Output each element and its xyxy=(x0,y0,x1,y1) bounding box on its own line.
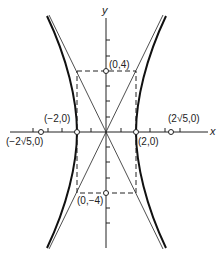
vertex-right-label: (2,0) xyxy=(138,136,159,147)
vertex-left-label: (−2,0) xyxy=(44,113,70,124)
vertex-right-point xyxy=(134,130,139,135)
focus-right-point xyxy=(169,130,174,135)
co-vertex-top-point xyxy=(104,69,109,74)
vertex-left-point xyxy=(75,130,80,135)
focus-left-point xyxy=(39,130,44,135)
co-vertex-top-label: (0,4) xyxy=(109,59,130,70)
focus-left-label: (−2√5,0) xyxy=(6,136,43,147)
x-axis-label: x xyxy=(209,125,216,137)
diagram-canvas: x y (0,4) (0,−4) (2,0) (−2,0) (2√5,0) (−… xyxy=(0,0,223,259)
co-vertex-bottom-point xyxy=(104,191,109,196)
co-vertex-bottom-label: (0,−4) xyxy=(77,195,103,206)
y-axis-label: y xyxy=(101,4,109,16)
hyperbola-diagram: x y (0,4) (0,−4) (2,0) (−2,0) (2√5,0) (−… xyxy=(0,0,223,259)
focus-right-label: (2√5,0) xyxy=(168,113,200,124)
